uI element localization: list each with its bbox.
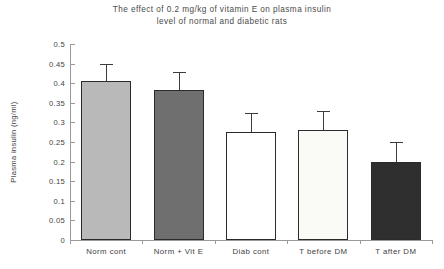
x-axis-tick [70, 240, 71, 244]
y-axis-tick-label: 0.05 [49, 216, 65, 225]
y-axis-tick-label: 0 [60, 236, 65, 245]
error-bar-cap [317, 111, 330, 112]
x-axis-tick [142, 240, 143, 244]
y-axis-tick-label: 0.15 [49, 177, 65, 186]
bar-norm-vit-e [154, 90, 204, 240]
y-axis-tick-label: 0.1 [54, 196, 65, 205]
bar-chart: The effect of 0.2 mg/kg of vitamin E on … [0, 0, 444, 269]
error-bar-stem [396, 142, 397, 162]
x-axis-label-1: Norm cont [86, 247, 126, 256]
y-axis-title: Plasma insulin (ng/ml) [9, 101, 18, 182]
error-bar-cap [100, 64, 113, 65]
x-axis-tick [215, 240, 216, 244]
y-axis-title-container: Plasma insulin (ng/ml) [6, 44, 20, 240]
y-axis-tick-label: 0.4 [54, 79, 65, 88]
y-axis-tick-label: 0.5 [54, 40, 65, 49]
y-axis-tick-label: 0.45 [49, 59, 65, 68]
y-axis-tick-label: 0.25 [49, 138, 65, 147]
error-bar-cap [245, 113, 258, 114]
x-axis-label-2: Norm + Vit E [154, 247, 204, 256]
x-axis-tick [360, 240, 361, 244]
y-axis-tick-label: 0.35 [49, 98, 65, 107]
plot-area [70, 44, 432, 240]
x-axis-tick [432, 240, 433, 244]
error-bar-stem [251, 113, 252, 133]
y-axis-tick-label: 0.3 [54, 118, 65, 127]
x-axis-line [70, 240, 433, 241]
error-bar-cap [173, 72, 186, 73]
x-axis-label-4: T before DM [299, 247, 347, 256]
bar-t-after-dm [371, 162, 421, 240]
chart-title: The effect of 0.2 mg/kg of vitamin E on … [0, 4, 444, 28]
bar-norm-cont [81, 81, 131, 240]
error-bar-stem [323, 111, 324, 130]
error-bar-cap [390, 142, 403, 143]
error-bar-stem [179, 72, 180, 90]
error-bar-stem [106, 64, 107, 82]
x-axis-label-5: T after DM [375, 247, 416, 256]
bar-t-before-dm [298, 130, 348, 240]
y-axis-tick-label: 0.2 [54, 157, 65, 166]
x-axis-label-3: Diab cont [233, 247, 270, 256]
bar-diab-cont [226, 132, 276, 240]
x-axis-tick [287, 240, 288, 244]
